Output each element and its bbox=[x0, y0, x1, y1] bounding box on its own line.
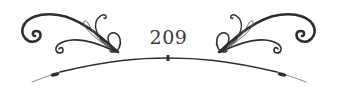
center-bead-icon bbox=[167, 55, 170, 61]
page-number: 209 bbox=[0, 26, 337, 48]
curved-rule-icon bbox=[32, 55, 306, 82]
flourish-divider-graphic bbox=[0, 0, 337, 96]
